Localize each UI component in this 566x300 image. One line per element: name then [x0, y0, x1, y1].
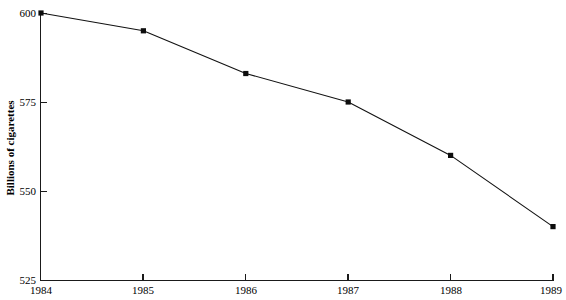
x-tick-marks — [41, 274, 554, 281]
data-point-1984 — [38, 10, 43, 15]
y-tick-label-550: 550 — [20, 185, 37, 197]
data-point-1987 — [346, 99, 351, 104]
x-tick-label-1988: 1988 — [440, 284, 463, 296]
chart-canvas: 600 575 550 525 1984 1985 1986 1987 1988… — [0, 0, 566, 300]
y-tick-label-600: 600 — [20, 7, 37, 19]
data-point-1988 — [448, 153, 453, 158]
x-tick-label-1986: 1986 — [235, 284, 258, 296]
x-tick-label-1989: 1989 — [540, 284, 563, 296]
line-chart: 600 575 550 525 1984 1985 1986 1987 1988… — [0, 0, 566, 300]
data-point-1985 — [141, 28, 146, 33]
x-tick-label-1984: 1984 — [30, 284, 53, 296]
y-tick-label-575: 575 — [20, 96, 37, 108]
y-tick-marks — [41, 14, 48, 281]
data-point-1986 — [243, 71, 248, 76]
data-point-1989 — [550, 224, 555, 229]
series-markers — [38, 10, 555, 229]
y-tick-labels: 600 575 550 525 — [20, 7, 37, 286]
series-line-cigarettes — [41, 13, 553, 227]
x-tick-labels: 1984 1985 1986 1987 1988 1989 — [30, 284, 563, 296]
y-axis-title: Billions of cigarettes — [4, 100, 16, 196]
x-tick-label-1985: 1985 — [132, 284, 155, 296]
x-tick-label-1987: 1987 — [337, 284, 360, 296]
